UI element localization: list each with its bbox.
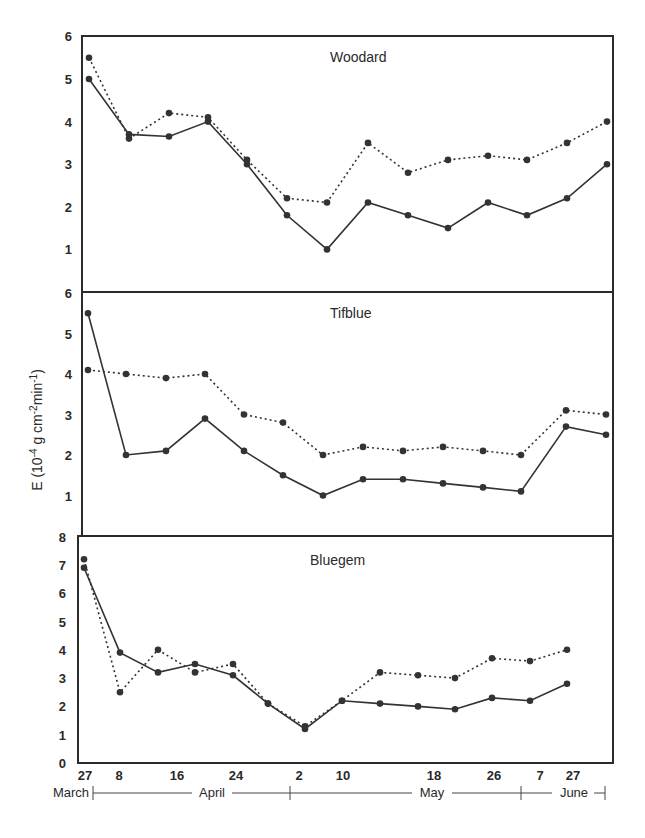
data-point-marker bbox=[405, 169, 412, 176]
data-point-marker bbox=[563, 423, 570, 430]
data-point-marker bbox=[564, 140, 571, 147]
data-point-marker bbox=[445, 157, 452, 164]
data-point-marker bbox=[377, 700, 384, 707]
panel-title: Tifblue bbox=[330, 305, 372, 321]
data-point-marker bbox=[117, 689, 124, 696]
x-tick-label: 10 bbox=[336, 768, 350, 783]
data-point-marker bbox=[166, 133, 173, 140]
y-tick-label: 8 bbox=[59, 530, 66, 545]
y-tick-label: 6 bbox=[65, 29, 72, 44]
y-tick-label: 3 bbox=[59, 671, 66, 686]
y-tick-label: 3 bbox=[65, 157, 72, 172]
data-point-marker bbox=[324, 246, 331, 253]
data-point-marker bbox=[524, 212, 531, 219]
x-tick-label: 7 bbox=[536, 768, 543, 783]
data-point-marker bbox=[440, 444, 447, 451]
data-markers bbox=[86, 54, 611, 252]
y-tick-label: 6 bbox=[65, 286, 72, 301]
panel-woodard: Woodard 123456 bbox=[65, 29, 613, 292]
data-point-marker bbox=[244, 157, 251, 164]
data-point-marker bbox=[85, 367, 92, 374]
month-label-june: June bbox=[560, 785, 588, 800]
data-point-marker bbox=[86, 54, 93, 61]
series-dotted-line bbox=[84, 559, 567, 726]
data-point-marker bbox=[563, 407, 570, 414]
data-point-marker bbox=[360, 476, 367, 483]
y-tick-label: 1 bbox=[65, 242, 72, 257]
data-point-marker bbox=[485, 152, 492, 159]
data-point-marker bbox=[527, 697, 534, 704]
y-tick-label: 1 bbox=[65, 489, 72, 504]
data-point-marker bbox=[365, 199, 372, 206]
data-point-marker bbox=[284, 212, 291, 219]
data-point-marker bbox=[85, 310, 92, 317]
y-tick-label: 3 bbox=[65, 408, 72, 423]
data-point-marker bbox=[320, 492, 327, 499]
month-label-may: May bbox=[420, 785, 445, 800]
data-point-marker bbox=[123, 452, 130, 459]
data-point-marker bbox=[518, 488, 525, 495]
data-point-marker bbox=[452, 706, 459, 713]
month-label-march: March bbox=[53, 785, 89, 800]
y-tick-label: 5 bbox=[65, 72, 72, 87]
x-tick-label: 2 bbox=[295, 768, 302, 783]
data-point-marker bbox=[377, 669, 384, 676]
y-axis-ticks: 012345678 bbox=[59, 530, 67, 771]
chart-canvas: E (10-4 g cm-2min-1) Woodard 123456 Tifb… bbox=[0, 0, 645, 838]
data-point-marker bbox=[230, 672, 237, 679]
x-tick-label: 27 bbox=[566, 768, 580, 783]
data-point-marker bbox=[202, 371, 209, 378]
y-tick-label: 4 bbox=[65, 367, 73, 382]
data-point-marker bbox=[86, 76, 93, 83]
y-tick-label: 7 bbox=[59, 558, 66, 573]
data-point-marker bbox=[405, 212, 412, 219]
data-point-marker bbox=[163, 448, 170, 455]
data-point-marker bbox=[518, 452, 525, 459]
data-point-marker bbox=[284, 195, 291, 202]
y-axis-ticks: 123456 bbox=[65, 29, 73, 257]
data-point-marker bbox=[489, 695, 496, 702]
series-solid-line bbox=[89, 79, 607, 249]
y-tick-label: 5 bbox=[59, 615, 66, 630]
data-point-marker bbox=[202, 415, 209, 422]
panel-frame bbox=[82, 292, 613, 536]
x-tick-label: 24 bbox=[229, 768, 244, 783]
data-point-marker bbox=[192, 661, 199, 668]
data-point-marker bbox=[524, 157, 531, 164]
x-tick-label: 16 bbox=[170, 768, 184, 783]
data-point-marker bbox=[280, 419, 287, 426]
y-tick-label: 4 bbox=[59, 643, 67, 658]
data-point-marker bbox=[489, 655, 496, 662]
y-tick-label: 6 bbox=[59, 586, 66, 601]
data-point-marker bbox=[241, 411, 248, 418]
data-point-marker bbox=[192, 669, 199, 676]
y-tick-label: 0 bbox=[59, 756, 66, 771]
y-tick-label: 2 bbox=[65, 448, 72, 463]
panel-title: Woodard bbox=[330, 49, 387, 65]
x-axis-tick-labels: 27 8 16 24 2 10 18 26 7 27 bbox=[78, 768, 580, 783]
y-tick-label: 1 bbox=[59, 728, 66, 743]
data-point-marker bbox=[564, 681, 571, 688]
series-dotted-line bbox=[89, 58, 607, 203]
data-point-marker bbox=[163, 375, 170, 382]
data-point-marker bbox=[604, 118, 611, 125]
data-point-marker bbox=[155, 647, 162, 654]
data-point-marker bbox=[81, 556, 88, 563]
y-axis-ticks: 123456 bbox=[65, 286, 73, 504]
data-point-marker bbox=[400, 476, 407, 483]
chart-figure: E (10-4 g cm-2min-1) Woodard 123456 Tifb… bbox=[0, 0, 645, 838]
data-point-marker bbox=[126, 135, 133, 142]
data-point-marker bbox=[604, 161, 611, 168]
data-point-marker bbox=[400, 448, 407, 455]
data-point-marker bbox=[480, 448, 487, 455]
data-point-marker bbox=[117, 649, 124, 656]
data-point-marker bbox=[123, 371, 130, 378]
data-point-marker bbox=[339, 697, 346, 704]
data-point-marker bbox=[445, 225, 452, 232]
data-markers bbox=[81, 556, 571, 732]
data-point-marker bbox=[360, 444, 367, 451]
y-tick-label: 2 bbox=[65, 200, 72, 215]
panel-bluegem: Bluegem 012345678 bbox=[59, 530, 613, 771]
data-point-marker bbox=[440, 480, 447, 487]
data-point-marker bbox=[564, 647, 571, 654]
